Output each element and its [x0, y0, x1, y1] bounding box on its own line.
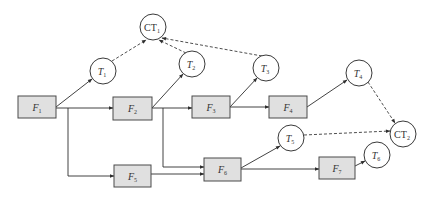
task-node-t2: T2: [179, 51, 205, 77]
edge-f3-t3: [230, 78, 257, 107]
task-node-t3: T3: [253, 55, 279, 81]
function-node-f1: F1: [18, 96, 56, 118]
edge-f4-t4: [307, 80, 347, 107]
edge-f7-t6: [355, 161, 365, 166]
function-nodes: F1F2F3F4F5F6F7: [18, 96, 355, 187]
dashed-edge-t3-ct1: [162, 38, 262, 56]
function-node-f6: F6: [204, 158, 241, 181]
function-node-f3: F3: [192, 96, 230, 118]
task-flow-diagram: F1F2F3F4F5F6F7 CT1T1T2T3T4CT2T5T6: [0, 0, 439, 199]
edge-f1-f5: [68, 108, 114, 176]
task-node-ct2: CT2: [390, 121, 416, 147]
task-node-t4: T4: [346, 60, 372, 86]
edge-f1-t1: [56, 79, 92, 107]
function-node-f2: F2: [113, 97, 152, 120]
task-node-t1: T1: [90, 58, 116, 84]
task-node-ct1: CT1: [140, 14, 166, 40]
task-node-t5: T5: [278, 125, 304, 151]
task-node-t6: T6: [364, 142, 390, 168]
function-node-f4: F4: [269, 96, 307, 118]
task-nodes: CT1T1T2T3T4CT2T5T6: [90, 14, 416, 168]
dashed-edge-t5-ct2: [304, 131, 390, 135]
edge-f6-t5: [241, 146, 280, 168]
function-node-f5: F5: [114, 165, 151, 187]
dashed-edge-t1-ct1: [112, 40, 146, 61]
dashed-edge-t4-ct2: [368, 82, 395, 123]
function-node-f7: F7: [319, 157, 355, 179]
dashed-edges: [112, 38, 395, 135]
edge-f2-t2: [152, 74, 183, 108]
